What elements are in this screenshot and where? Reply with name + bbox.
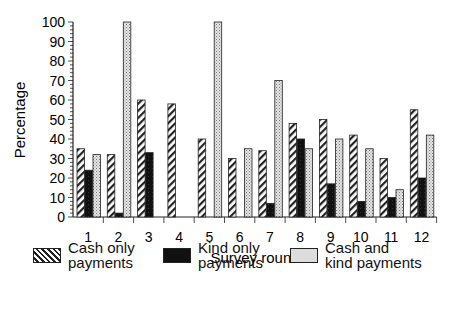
bar — [214, 22, 222, 217]
bar — [138, 100, 146, 217]
bar — [245, 149, 253, 217]
svg-text:30: 30 — [49, 151, 65, 167]
bar — [198, 139, 206, 217]
legend-label: Kind only payments — [198, 240, 263, 270]
bar — [350, 135, 358, 217]
hatch-swatch-icon — [33, 248, 61, 263]
bar-chart: 0102030405060708090100123456789101112 Pe… — [0, 0, 452, 325]
legend-label: Cash and kind payments — [325, 240, 422, 270]
svg-text:100: 100 — [42, 14, 66, 30]
bar — [107, 155, 115, 217]
svg-text:7: 7 — [266, 229, 274, 245]
legend-item-kind: Kind only payments — [163, 240, 263, 270]
bar — [85, 170, 93, 217]
svg-text:20: 20 — [49, 170, 65, 186]
bar — [93, 155, 101, 217]
svg-text:80: 80 — [49, 53, 65, 69]
bar — [388, 198, 396, 218]
bar — [259, 151, 267, 217]
bar — [267, 203, 275, 217]
bar — [380, 159, 388, 218]
solid-swatch-icon — [163, 248, 191, 263]
svg-text:50: 50 — [49, 112, 65, 128]
svg-text:60: 60 — [49, 92, 65, 108]
svg-text:90: 90 — [49, 34, 65, 50]
y-axis-label: Percentage — [11, 82, 28, 159]
bar — [319, 120, 327, 218]
bar — [229, 159, 237, 218]
stipple-swatch-icon — [290, 248, 318, 263]
bar — [297, 139, 305, 217]
bar — [115, 213, 123, 217]
legend-item-both: Cash and kind payments — [290, 240, 422, 270]
bar — [123, 22, 131, 217]
svg-text:70: 70 — [49, 73, 65, 89]
bar — [168, 104, 176, 217]
svg-text:0: 0 — [57, 209, 65, 225]
bar — [418, 178, 426, 217]
bar — [305, 149, 313, 217]
svg-text:40: 40 — [49, 131, 65, 147]
svg-text:3: 3 — [145, 229, 153, 245]
bar — [335, 139, 343, 217]
svg-text:10: 10 — [49, 190, 65, 206]
bar — [146, 153, 154, 217]
bar — [396, 190, 404, 217]
bar — [426, 135, 434, 217]
bar — [358, 201, 366, 217]
bar — [327, 184, 335, 217]
legend-item-cash: Cash only payments — [33, 240, 135, 270]
bars — [77, 22, 434, 217]
bar — [275, 81, 283, 218]
bar — [77, 149, 85, 217]
legend-label: Cash only payments — [68, 240, 135, 270]
bar — [366, 149, 374, 217]
bar — [410, 110, 418, 217]
bar — [289, 123, 297, 217]
